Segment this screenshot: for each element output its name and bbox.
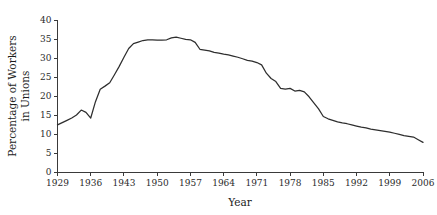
x-tick-label: 1978 <box>279 178 302 188</box>
y-tick-label: 40 <box>40 15 52 25</box>
y-tick-label: 20 <box>40 91 52 101</box>
x-tick-label: 1985 <box>312 178 335 188</box>
y-tick-label: 15 <box>40 110 52 120</box>
x-tick-label: 1957 <box>179 178 202 188</box>
x-tick-label: 1950 <box>146 178 169 188</box>
y-tick-label: 35 <box>40 34 52 44</box>
x-tick-label: 1929 <box>46 178 69 188</box>
x-tick-label: 1964 <box>212 178 235 188</box>
y-tick-label: 10 <box>40 129 52 139</box>
x-tick-label: 1943 <box>113 178 136 188</box>
y-tick-label: 30 <box>40 53 52 63</box>
line-chart-canvas: 0510152025303540 19291936194319501957196… <box>0 0 437 215</box>
y-tick-label: 25 <box>40 72 52 82</box>
y-tick-label: 5 <box>46 148 52 158</box>
y-tick-label: 0 <box>46 167 52 177</box>
y-axis-title-line2: in Unions <box>19 71 31 122</box>
x-tick-label: 2006 <box>412 178 435 188</box>
x-axis-title: Year <box>227 196 252 208</box>
x-tick-label: 1971 <box>245 178 268 188</box>
x-tick-label: 1936 <box>79 178 102 188</box>
y-axis-title-line1: Percentage of Workers <box>6 35 18 156</box>
x-tick-label: 1992 <box>345 178 368 188</box>
x-tick-label: 1999 <box>378 178 401 188</box>
chart-figure: 0510152025303540 19291936194319501957196… <box>0 0 437 215</box>
